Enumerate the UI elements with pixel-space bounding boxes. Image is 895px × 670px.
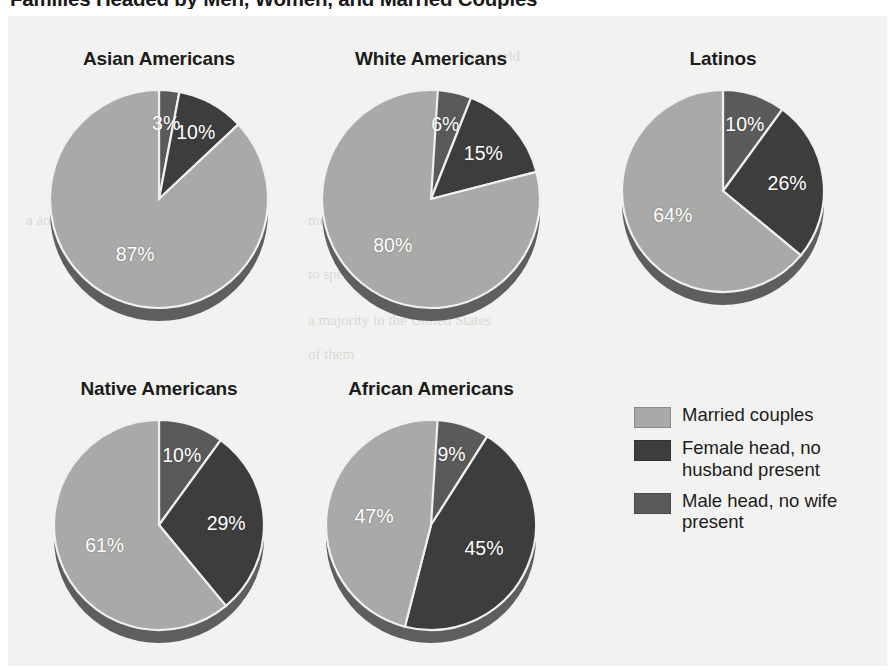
pie-chart: 9%45%47% [320,414,542,649]
pie-slice-label: 64% [653,203,692,226]
pie-slice-label: 80% [373,234,412,257]
pie-panel-title: African Americans [300,378,562,400]
legend-label: Married couples [682,404,814,426]
pie-slice-label: 6% [431,113,459,136]
pie-slice-label: 15% [464,141,503,164]
chart-figure: Families Headed by Men, Women, and Marri… [0,0,895,670]
pie-chart: 6%15%80% [316,84,546,327]
pie-slice-label: 87% [116,243,155,266]
legend-item[interactable]: Female head, no husband present [634,437,872,481]
paper-bleed-text: of them [308,346,354,363]
pie-slice-label: 47% [354,504,393,527]
legend-swatch [634,493,671,514]
legend-label: Female head, no husband present [682,437,872,481]
pie-chart: 10%29%61% [48,414,270,649]
pie-chart: 3%10%87% [44,84,274,327]
legend-label: Male head, no wife present [682,490,872,534]
pie-slice-label: 10% [176,121,215,144]
pie-panel-title: Latinos [592,48,854,70]
pie-slice-label: 45% [464,536,503,559]
pie-panel-title: Native Americans [28,378,290,400]
pie-slice-label: 10% [162,444,201,467]
pie-chart: 10%26%64% [616,84,830,311]
pie-slice-label: 9% [437,443,465,466]
pie-slice-label: 29% [207,511,246,534]
figure-title: Families Headed by Men, Women, and Marri… [10,0,870,9]
chart-legend: Married couplesFemale head, no husband p… [634,404,872,542]
legend-swatch [634,407,671,428]
pie-slice-label: 61% [85,533,124,556]
legend-item[interactable]: Married couples [634,404,872,428]
pie-slice-label: 10% [725,112,764,135]
legend-swatch [634,440,671,461]
pie-panel-title: White Americans [300,48,562,70]
legend-item[interactable]: Male head, no wife present [634,490,872,534]
pie-panel-title: Asian Americans [28,48,290,70]
pie-slice-label: 26% [768,171,807,194]
